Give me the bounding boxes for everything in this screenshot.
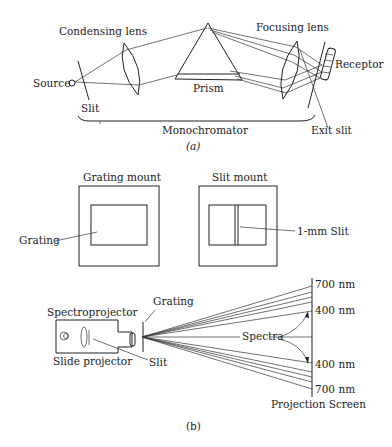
400nm-top-label: 400 nm — [315, 304, 355, 316]
grating-label: Grating — [19, 234, 60, 246]
slide-projector-label: Slide projector — [53, 355, 133, 367]
prism-label: Prism — [193, 82, 224, 94]
slit-mount-label: Slit mount — [212, 171, 268, 183]
slit-label-b: Slit — [149, 356, 168, 368]
grating — [91, 205, 147, 245]
spectroprojector-label: Spectroprojector — [47, 306, 139, 318]
caption-a: (a) — [186, 140, 200, 152]
figure-a: Condensing lens Focusing lens Source Sli… — [33, 21, 384, 152]
figure-b-mounts: Grating mount Slit mount Grating 1-mm Sl… — [19, 171, 349, 266]
one-mm-slit-label: 1-mm Slit — [297, 225, 349, 237]
monochromator-label: Monochromator — [162, 124, 249, 136]
exit-slit — [308, 42, 325, 108]
700nm-top-label: 700 nm — [315, 278, 355, 290]
grating-mount-label: Grating mount — [83, 171, 162, 183]
caption-b: (b) — [186, 420, 201, 432]
receptor-label: Receptor — [335, 58, 384, 70]
monochromator-brace — [78, 115, 315, 121]
exit-slit-label: Exit slit — [311, 124, 353, 136]
entrance-slit — [78, 61, 89, 100]
slide-projector — [56, 320, 132, 353]
grating-top-label: Grating — [153, 295, 194, 307]
spectra-label: Spectra — [242, 330, 284, 342]
spectrometer-diagram: Condensing lens Focusing lens Source Sli… — [0, 0, 392, 447]
condensing-lens-label: Condensing lens — [59, 25, 147, 37]
focusing-lens — [281, 41, 299, 99]
700nm-bottom-label: 700 nm — [315, 383, 355, 395]
projection-screen-label: Projection Screen — [271, 398, 366, 410]
slit-label: Slit — [81, 102, 100, 114]
focusing-lens-label: Focusing lens — [256, 21, 329, 33]
400nm-bottom-label: 400 nm — [315, 358, 355, 370]
source-label: Source — [33, 77, 70, 89]
figure-b-projector: Spectroprojector Slide projector Grating… — [47, 278, 366, 432]
